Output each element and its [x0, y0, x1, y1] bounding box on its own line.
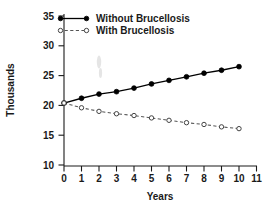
x-tick-label: 1 — [79, 173, 85, 184]
data-point — [219, 125, 223, 129]
legend-entry-without-brucellosis: Without Brucellosis — [58, 13, 190, 24]
data-point — [132, 86, 137, 91]
x-tick-label: 9 — [219, 173, 225, 184]
data-point — [237, 126, 241, 130]
x-tick-label: 8 — [201, 173, 207, 184]
y-tick-label: 35 — [43, 11, 55, 22]
data-point — [202, 122, 206, 126]
chart-canvas: 35 30 25 20 15 10 0 1 2 3 4 5 — [0, 0, 271, 205]
data-point — [184, 74, 189, 79]
data-point — [97, 92, 102, 97]
legend-label-with-brucellosis: With Brucellosis — [96, 25, 175, 36]
data-point — [167, 78, 172, 83]
data-point — [167, 118, 171, 122]
x-tick-label: 0 — [61, 173, 67, 184]
data-point — [149, 116, 153, 120]
chart-legend: Without Brucellosis With Brucellosis — [58, 13, 190, 36]
x-tick-label: 10 — [233, 173, 245, 184]
data-point — [132, 113, 136, 117]
x-axis-title: Years — [147, 191, 174, 202]
legend-marker-open-circle — [84, 28, 88, 32]
legend-label-without-brucellosis: Without Brucellosis — [96, 13, 190, 24]
data-point — [202, 71, 207, 76]
legend-marker-filled-circle — [84, 16, 89, 21]
y-tick-label: 20 — [43, 100, 55, 111]
legend-marker-filled-circle — [58, 16, 63, 21]
data-point — [79, 96, 84, 101]
data-point — [79, 106, 83, 110]
legend-marker-open-circle — [58, 28, 62, 32]
legend-entry-with-brucellosis: With Brucellosis — [58, 25, 174, 36]
x-tick-label: 5 — [149, 173, 155, 184]
x-tick-label: 7 — [184, 173, 190, 184]
data-point — [114, 89, 119, 94]
data-point — [97, 109, 101, 113]
x-tick-label: 4 — [131, 173, 137, 184]
y-axis-title: Thousands — [5, 63, 16, 117]
data-point — [237, 64, 242, 69]
data-point — [62, 101, 66, 105]
data-point — [114, 112, 118, 116]
y-tick-label: 10 — [43, 160, 55, 171]
data-point — [149, 82, 154, 87]
y-tick-label: 30 — [43, 40, 55, 51]
y-axis-ticks: 35 30 25 20 15 10 — [43, 11, 64, 171]
x-axis-ticks: 0 1 2 3 4 5 6 7 8 9 10 11 — [61, 166, 262, 184]
y-tick-label: 15 — [43, 130, 55, 141]
x-tick-label: 3 — [114, 173, 120, 184]
series-markers-without-brucellosis — [62, 64, 242, 105]
brucellosis-line-chart: 35 30 25 20 15 10 0 1 2 3 4 5 — [0, 0, 271, 205]
data-point — [219, 68, 224, 73]
x-tick-label: 6 — [166, 173, 172, 184]
scan-smudge-artifact-2 — [99, 68, 102, 78]
scan-smudge-artifact — [97, 56, 101, 69]
x-tick-label: 2 — [96, 173, 102, 184]
data-point — [184, 120, 188, 124]
y-tick-label: 25 — [43, 70, 55, 81]
x-tick-label: 11 — [251, 173, 262, 184]
